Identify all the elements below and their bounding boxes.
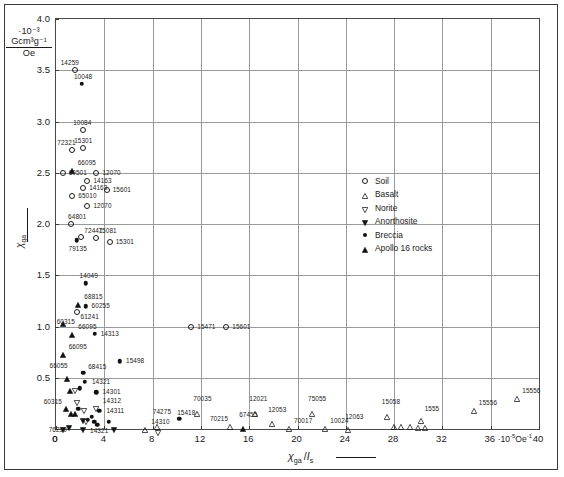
data-point [74,309,80,315]
data-point-label: 15471 [197,323,215,330]
legend-marker-icon [358,205,372,211]
x-axis-unit: ·10-5Oe-1 [498,433,532,444]
legend-marker-icon [358,218,372,224]
gridline-horizontal [56,224,539,225]
data-point-label: 15418 [177,409,195,416]
data-point-label: 14163 [93,177,111,184]
data-point-label: 60501 [69,169,87,176]
gridline-horizontal [56,275,539,276]
data-point [177,417,182,422]
x-tick-label: 12 [195,433,206,444]
x-tick-label: 24 [340,433,351,444]
x-tick-label: 20 [291,433,302,444]
x-tick-label: 8 [149,433,154,444]
legend-label: Anorthosite [375,216,417,226]
plot-area: 1425910048100847232115301660956050112070… [55,18,540,430]
x-tick [539,426,540,430]
data-point-label: 12053 [268,406,286,413]
data-point-label: 12021 [249,395,267,402]
gridline-horizontal [56,378,539,379]
data-point-label: 14049 [80,272,98,279]
y-tick-label: 1.0 [22,320,50,331]
data-point [83,380,88,385]
data-point-label: 15556 [522,387,540,394]
figure-scatter-plot: ·10⁻³ Gcm³g⁻¹ Oe χga χga /Is ·10-5Oe-1 1… [0,0,564,477]
y-tick-label: 2.0 [22,218,50,229]
data-point-label: 15058 [382,398,400,405]
data-point [155,422,161,428]
data-point-label: 15498 [126,357,144,364]
data-point-label: 10084 [73,119,91,126]
legend-label: Basalt [375,189,398,199]
data-point [60,170,66,176]
data-point-label: 70035 [193,395,211,402]
data-point-label: 10048 [74,73,92,80]
data-point [81,370,86,375]
x-tick [201,426,202,430]
legend-marker-icon [358,191,372,197]
data-point [93,398,99,404]
data-point [514,388,520,394]
data-point [286,418,292,424]
data-point [69,147,75,153]
data-point-label: 66095 [78,159,96,166]
x-tick-label: 36 [484,433,495,444]
data-point [81,400,87,406]
data-point [188,324,194,330]
data-point-label: 14259 [61,59,79,66]
legend-item: Norite [358,201,432,215]
data-point [83,281,88,286]
y-tick [55,70,59,71]
data-point [97,408,102,413]
x-axis-title: χga /Is [288,450,313,465]
y-unit-denominator: Oe [23,48,35,58]
data-point-label: 14321 [92,378,110,385]
x-tick [298,426,299,430]
data-point [84,203,90,209]
data-point [391,416,397,422]
data-point [69,324,75,330]
data-point [69,193,75,199]
data-point-label: 72321 [57,139,75,146]
x-axis-arrow [336,457,376,458]
gridline-horizontal [56,327,539,328]
data-point-label: 14313 [101,330,119,337]
x-tick [442,426,443,430]
data-point [68,221,74,227]
data-point [142,419,148,425]
data-point-label: 64801 [68,213,86,220]
y-unit-prefix: ·10⁻³ [18,26,39,36]
data-point [269,413,275,419]
data-point [111,419,117,425]
data-point [80,145,86,151]
data-point [252,403,258,409]
data-point [80,185,86,191]
legend-item: Breccia [358,228,432,242]
data-point [77,386,82,391]
legend-item: Anorthosite [358,215,432,229]
legend-label: Breccia [375,230,403,240]
legend-item: Soil [358,174,432,188]
y-tick [55,224,59,225]
data-point-label: 15301 [116,238,134,245]
data-point [80,81,85,86]
y-tick [55,173,59,174]
x-tick-label: 32 [436,433,447,444]
gridline-horizontal [56,70,539,71]
data-point-label: 70017 [294,417,312,424]
data-point-label: 15601 [232,323,250,330]
data-point [92,331,97,336]
y-tick-label: 0.5 [22,371,50,382]
data-point [66,417,72,423]
data-point [93,235,99,241]
data-point-label: 74275 [153,408,171,415]
data-point-label: 76230 [49,426,67,433]
data-point-label: 61241 [81,313,99,320]
data-point [75,294,81,300]
data-point [93,170,99,176]
data-point-label: 65010 [78,192,96,199]
data-point [309,403,315,409]
legend-label: Soil [375,176,389,186]
data-point [223,324,229,330]
legend-label: Norite [375,203,397,213]
